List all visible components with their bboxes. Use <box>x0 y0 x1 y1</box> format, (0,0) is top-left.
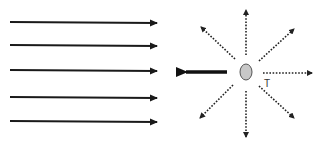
scattered-wave-arrow-up-right <box>259 29 294 61</box>
particle <box>240 64 252 80</box>
scattering-diagram: T <box>0 0 321 143</box>
incident-wave-arrow <box>10 70 157 71</box>
scattered-wave-arrow-up-left <box>201 27 235 59</box>
transmitted-label: T <box>264 78 270 89</box>
scattered-wave-arrow-down-right <box>259 86 294 118</box>
incident-wave-arrow <box>10 22 157 23</box>
incident-wave-arrow <box>10 45 157 46</box>
scattered-wave-arrow-down-left <box>200 85 233 118</box>
incident-wave-arrow <box>10 121 157 122</box>
incident-waves <box>10 22 157 122</box>
incident-wave-arrow <box>10 97 157 98</box>
